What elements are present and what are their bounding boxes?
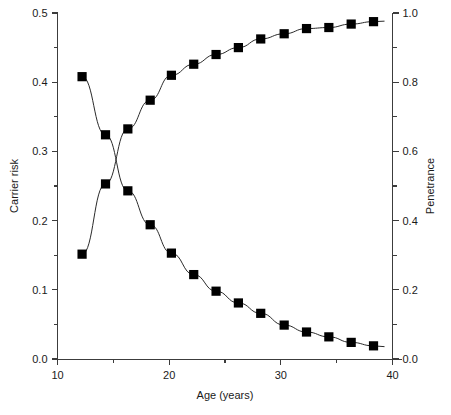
data-point-marker (369, 17, 378, 26)
data-point-marker (167, 71, 176, 80)
data-point-marker (234, 43, 243, 52)
data-point-marker (369, 341, 378, 350)
y-axis-right-title: Penetrance (424, 158, 436, 214)
y-right-tick-label: 0.0 (403, 353, 418, 365)
y-left-tick-label: 0.0 (32, 353, 47, 365)
data-point-marker (347, 19, 356, 28)
data-point-marker (189, 60, 198, 69)
y-right-tick-label: 0.2 (403, 284, 418, 296)
data-point-marker (123, 186, 132, 195)
data-point-marker (189, 270, 198, 279)
y-right-tick-label: 0.4 (403, 215, 418, 227)
y-right-tick-label: 0.8 (403, 76, 418, 88)
data-point-marker (146, 96, 155, 105)
data-point-marker (347, 338, 356, 347)
data-point-marker (256, 34, 265, 43)
x-tick-label: 30 (275, 369, 287, 381)
y-left-tick-label: 0.1 (32, 284, 47, 296)
series-2 (77, 17, 384, 259)
data-point-marker (302, 24, 311, 33)
y-left-tick-label: 0.5 (32, 7, 47, 19)
y-axis-left-title: Carrier risk (8, 159, 20, 213)
y-axis-right-ticks: 0.00.20.40.60.81.0 (393, 7, 418, 365)
chart-plot-area: 10203040 0.00.10.20.30.40.5 0.00.20.40.6… (0, 0, 451, 415)
data-point-marker (77, 72, 86, 81)
data-point-marker (211, 50, 220, 59)
data-point-marker (123, 124, 132, 133)
data-point-marker (324, 332, 333, 341)
y-axis-left-ticks: 0.00.10.20.30.40.5 (32, 7, 57, 365)
y-right-tick-label: 1.0 (403, 7, 418, 19)
data-point-marker (146, 220, 155, 229)
data-point-marker (101, 179, 110, 188)
x-tick-label: 40 (386, 369, 398, 381)
data-point-marker (256, 309, 265, 318)
y-right-tick-label: 0.6 (403, 145, 418, 157)
data-point-marker (101, 130, 110, 139)
data-point-marker (167, 249, 176, 258)
data-point-marker (302, 327, 311, 336)
data-point-marker (234, 298, 243, 307)
x-axis-ticks: 10203040 (51, 359, 398, 381)
y-left-tick-label: 0.4 (32, 76, 47, 88)
series-line (82, 21, 384, 254)
data-series-layer (77, 17, 384, 350)
series-line (82, 77, 384, 347)
x-axis-title: Age (years) (197, 389, 254, 401)
data-point-marker (280, 320, 289, 329)
y-left-tick-label: 0.2 (32, 215, 47, 227)
x-tick-label: 10 (51, 369, 63, 381)
y-left-tick-label: 0.3 (32, 145, 47, 157)
x-tick-label: 20 (163, 369, 175, 381)
data-point-marker (324, 23, 333, 32)
data-point-marker (211, 287, 220, 296)
data-point-marker (280, 29, 289, 38)
chart-figure: 10203040 0.00.10.20.30.40.5 0.00.20.40.6… (0, 0, 451, 415)
data-point-marker (77, 250, 86, 259)
series-1 (77, 72, 384, 350)
